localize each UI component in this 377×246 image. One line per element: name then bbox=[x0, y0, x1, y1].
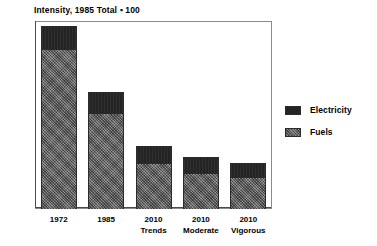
legend-item-electricity[interactable]: Electricity bbox=[285, 103, 375, 117]
bar-segment-fuels[interactable] bbox=[183, 173, 219, 209]
bar-segment-fuels[interactable] bbox=[136, 163, 172, 209]
bar-segment-electricity[interactable] bbox=[88, 92, 124, 113]
bar-segment-electricity[interactable] bbox=[230, 163, 266, 177]
x-axis-label-line2: Vigorous bbox=[218, 225, 278, 236]
legend-swatch-electricity-icon bbox=[285, 106, 301, 115]
bar-stack[interactable] bbox=[41, 26, 77, 209]
y-axis: 160140120100806040200 bbox=[0, 0, 35, 246]
legend-item-fuels[interactable]: Fuels bbox=[285, 125, 375, 139]
bar-segment-fuels[interactable] bbox=[88, 113, 124, 209]
legend-label: Electricity bbox=[310, 105, 352, 115]
legend-label: Fuels bbox=[310, 127, 333, 137]
x-axis-label-line1: 2010 bbox=[145, 215, 163, 224]
bar-segment-electricity[interactable] bbox=[183, 157, 219, 172]
x-axis-label-line1: 2010 bbox=[239, 215, 257, 224]
bar-chart-figure: Intensity, 1985 Total ▪ 100 160140120100… bbox=[0, 0, 377, 246]
bar-stack[interactable] bbox=[136, 146, 172, 209]
chart-title: Intensity, 1985 Total ▪ 100 bbox=[34, 5, 140, 15]
bar-segment-fuels[interactable] bbox=[41, 49, 77, 209]
bar-stack[interactable] bbox=[88, 92, 124, 209]
x-axis-label-line1: 1972 bbox=[50, 215, 68, 224]
x-axis-label-line1: 1985 bbox=[97, 215, 115, 224]
bar-stack[interactable] bbox=[183, 157, 219, 209]
bar-segment-electricity[interactable] bbox=[136, 146, 172, 164]
bar-stack[interactable] bbox=[230, 163, 266, 209]
bar-segment-electricity[interactable] bbox=[41, 26, 77, 50]
chart-legend: ElectricityFuels bbox=[285, 103, 375, 147]
bar-segment-fuels[interactable] bbox=[230, 177, 266, 209]
x-axis-label-line1: 2010 bbox=[192, 215, 210, 224]
x-axis-tick-label: 2010Vigorous bbox=[218, 214, 278, 236]
legend-swatch-fuels-icon bbox=[285, 128, 301, 137]
